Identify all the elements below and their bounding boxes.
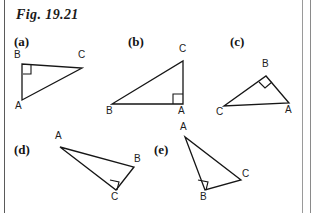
vertex-label-a-a: A <box>15 101 22 111</box>
vertex-label-b-b: B <box>106 106 113 116</box>
vertex-label-b-c: C <box>179 44 186 54</box>
vertex-label-c-a: A <box>285 105 292 115</box>
panel-label-b: (b) <box>128 34 144 50</box>
vertex-label-c-b: B <box>262 59 269 69</box>
vertex-label-e-a: A <box>180 122 187 132</box>
right-angle-mark-a <box>23 65 31 74</box>
right-angle-mark-c <box>259 82 272 88</box>
figure-page: Fig. 19.21 (a)ABC(b)ABC(c)ABC(d)ABC(e)AB… <box>0 0 312 213</box>
triangle-c <box>224 76 289 106</box>
triangle-e <box>185 137 241 190</box>
vertex-label-a-c: C <box>78 50 85 60</box>
vertex-label-e-c: C <box>242 169 249 179</box>
triangle-b <box>112 61 183 104</box>
triangle-d <box>60 147 134 190</box>
vertex-label-b-a: A <box>178 106 185 116</box>
vertex-label-d-a: A <box>55 131 62 141</box>
vertex-label-c-c: C <box>216 107 223 117</box>
vertex-label-e-b: B <box>200 192 207 202</box>
triangles-drawing <box>0 0 312 213</box>
panel-label-c: (c) <box>230 34 244 50</box>
vertex-label-a-b: B <box>14 50 21 60</box>
right-angle-mark-b <box>173 94 183 104</box>
vertex-label-d-c: C <box>111 192 118 202</box>
panel-label-a: (a) <box>14 34 29 50</box>
panel-label-d: (d) <box>14 142 30 158</box>
panel-label-e: (e) <box>154 142 168 158</box>
vertex-label-d-b: B <box>134 154 141 164</box>
